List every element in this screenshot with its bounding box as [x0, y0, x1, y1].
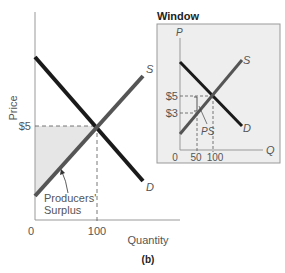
supply-demand-diagram: Price $5 0 100 Quantity (b) S D Producer… — [0, 0, 285, 273]
window-title: Window — [157, 10, 199, 22]
x-axis-label: Quantity — [128, 234, 169, 246]
supply-label: S — [146, 63, 154, 75]
window-demand-label: D — [243, 122, 251, 134]
x-tick-0: 0 — [28, 225, 34, 237]
window-ps-label: PS — [201, 126, 215, 137]
window-price-tick-3: $3 — [166, 107, 178, 119]
surplus-pointer-arrow — [62, 172, 68, 193]
demand-label: D — [146, 181, 154, 193]
surplus-label-line2: Surplus — [44, 204, 82, 216]
surplus-label-line1: Producers' — [44, 192, 96, 204]
main-chart: Price $5 0 100 Quantity (b) S D Producer… — [7, 12, 180, 265]
y-axis-label: Price — [7, 95, 19, 120]
figure-caption: (b) — [142, 254, 155, 265]
window-x-tick-0: 0 — [172, 152, 178, 163]
window-x-tick-50: 50 — [190, 152, 202, 163]
price-tick-5: $5 — [19, 120, 31, 132]
window-supply-label: S — [243, 54, 251, 66]
window-x-tick-100: 100 — [207, 152, 224, 163]
window-inset: Window P Q $5 $3 0 50 100 S D PS — [157, 10, 280, 163]
window-price-tick-5: $5 — [166, 90, 178, 102]
window-p-label: P — [176, 27, 183, 38]
x-tick-100: 100 — [88, 225, 106, 237]
window-q-label: Q — [266, 144, 275, 156]
